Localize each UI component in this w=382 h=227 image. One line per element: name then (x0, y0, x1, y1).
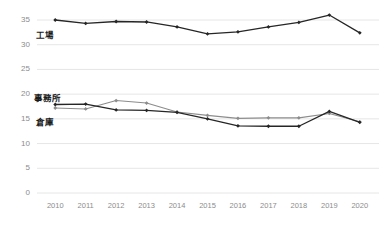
data-point-marker (84, 22, 88, 26)
series-line (55, 15, 360, 34)
chart-plot-area (0, 0, 382, 227)
x-axis-tick-label: 2011 (69, 201, 103, 211)
x-axis-tick-label: 2015 (191, 201, 225, 211)
data-point-marker (267, 124, 271, 128)
x-axis-tick-label: 2018 (282, 201, 316, 211)
series-label-factory: 工場 (36, 30, 54, 40)
data-point-marker (206, 117, 210, 121)
x-axis-tick-label: 2017 (251, 201, 285, 211)
x-axis-tick-label: 2014 (160, 201, 194, 211)
series-label-office: 事務所 (34, 93, 61, 103)
x-axis-tick-label: 2012 (99, 201, 133, 211)
series-label-warehouse: 倉庫 (36, 117, 54, 127)
data-point-marker (297, 21, 301, 25)
data-point-marker (206, 32, 210, 36)
y-axis-tick-label: 10 (4, 139, 30, 149)
line-chart: 05101520253035 2010201120122013201420152… (0, 0, 382, 227)
x-axis-tick-label: 2010 (38, 201, 72, 211)
data-point-marker (53, 18, 57, 22)
y-axis-tick-label: 15 (4, 114, 30, 124)
y-axis-tick-label: 25 (4, 64, 30, 74)
data-point-marker (236, 30, 240, 34)
data-point-marker (84, 107, 88, 111)
data-point-marker (236, 116, 240, 120)
data-point-marker (206, 113, 210, 117)
data-point-marker (236, 124, 240, 128)
x-axis-tick-label: 2013 (130, 201, 164, 211)
data-point-marker (175, 25, 179, 29)
data-point-marker (84, 102, 88, 106)
data-point-marker (53, 106, 57, 110)
y-axis-tick-label: 30 (4, 40, 30, 50)
y-axis-tick-label: 5 (4, 163, 30, 173)
x-axis-tick-label: 2019 (312, 201, 346, 211)
data-point-marker (145, 109, 149, 113)
data-point-marker (145, 20, 149, 24)
y-axis-tick-label: 0 (4, 188, 30, 198)
data-point-marker (114, 99, 118, 103)
y-axis-tick-label: 35 (4, 15, 30, 25)
data-point-marker (267, 25, 271, 29)
x-axis-tick-label: 2020 (343, 201, 377, 211)
data-point-marker (114, 108, 118, 112)
y-axis-tick-label: 20 (4, 89, 30, 99)
x-axis-tick-label: 2016 (221, 201, 255, 211)
data-point-marker (145, 101, 149, 105)
data-point-marker (53, 103, 57, 107)
